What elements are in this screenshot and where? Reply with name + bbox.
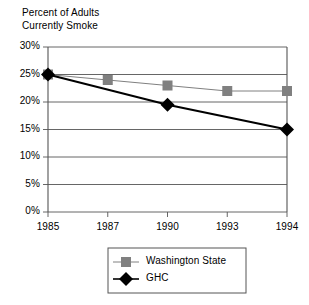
x-axis-tick-label: 1994 [265, 221, 309, 232]
data-point-marker [161, 98, 175, 112]
legend-label-1: Washington State [146, 255, 226, 266]
chart-figure: Percent of AdultsCurrently Smoke 30%25%2… [0, 0, 309, 305]
y-axis-tick-label: 5% [2, 178, 40, 189]
y-axis-tick-label: 30% [2, 40, 40, 51]
y-axis-tick-label: 20% [2, 95, 40, 106]
data-point-marker [280, 123, 294, 137]
legend-marker [121, 257, 131, 267]
x-axis-tick-label: 1987 [86, 221, 130, 232]
data-point-marker [222, 86, 232, 96]
data-point-marker [163, 81, 173, 91]
y-axis-tick-label: 0% [2, 205, 40, 216]
y-axis-tick-label: 10% [2, 150, 40, 161]
legend-label-2: GHC [146, 272, 169, 283]
data-point-marker [103, 75, 113, 85]
data-point-marker [282, 86, 292, 96]
x-axis-tick-label: 1990 [146, 221, 190, 232]
y-axis-tick-label: 15% [2, 123, 40, 134]
x-axis-tick-label: 1985 [26, 221, 70, 232]
y-axis-tick-label: 25% [2, 68, 40, 79]
x-axis-tick-label: 1993 [205, 221, 249, 232]
